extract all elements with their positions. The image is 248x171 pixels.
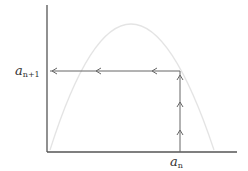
x-value-label: an (170, 155, 183, 170)
x-label-base: a (170, 154, 178, 169)
cobweb-diagram (0, 0, 248, 171)
y-label-subscript: n+1 (23, 70, 40, 79)
y-value-label: an+1 (15, 64, 40, 79)
x-label-subscript: n (178, 161, 183, 170)
parabola-curve (50, 24, 214, 150)
y-label-base: a (15, 63, 23, 78)
